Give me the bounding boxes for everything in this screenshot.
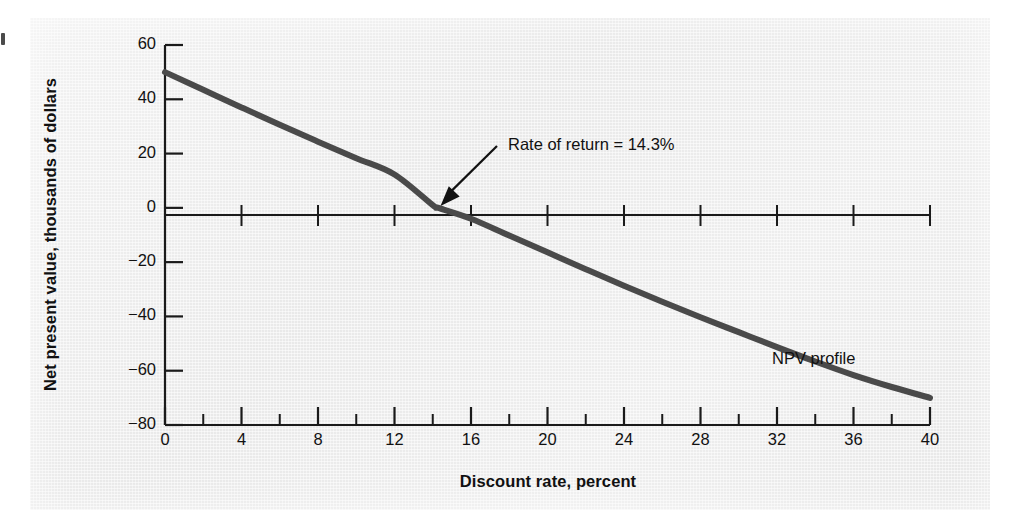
npv-profile-label: NPV profile xyxy=(772,349,855,368)
x-tick-label: 16 xyxy=(441,430,501,449)
y-tick-label: −20 xyxy=(96,251,156,270)
axes-group xyxy=(165,45,930,425)
x-tick-label: 12 xyxy=(365,430,425,449)
x-tick-label: 40 xyxy=(900,430,960,449)
x-tick-label: 36 xyxy=(824,430,884,449)
x-tick-label: 28 xyxy=(671,430,731,449)
x-tick-label: 20 xyxy=(518,430,578,449)
x-tick-label: 32 xyxy=(747,430,807,449)
y-tick-label: −60 xyxy=(96,360,156,379)
x-tick-label: 0 xyxy=(135,430,195,449)
npv-profile-figure: 6040200−20−40−60−80 0481216202428323640 … xyxy=(0,0,1024,526)
annotation-arrow-shaft xyxy=(449,146,498,194)
y-tick-label: 20 xyxy=(96,143,156,162)
x-tick-label: 8 xyxy=(288,430,348,449)
rate-of-return-annotation: Rate of return = 14.3% xyxy=(508,135,674,154)
y-axis-title: Net present value, thousands of dollars xyxy=(41,45,60,425)
x-axis-title: Discount rate, percent xyxy=(165,472,931,491)
x-tick-label: 4 xyxy=(212,430,272,449)
rate-of-return-arrow xyxy=(441,146,498,206)
y-tick-label: 60 xyxy=(96,34,156,53)
y-tick-label: −40 xyxy=(96,305,156,324)
annotation-arrow-head xyxy=(441,186,460,206)
y-tick-label: 40 xyxy=(96,88,156,107)
x-tick-label: 24 xyxy=(594,430,654,449)
y-tick-marks xyxy=(165,45,183,425)
y-tick-label: 0 xyxy=(96,197,156,216)
